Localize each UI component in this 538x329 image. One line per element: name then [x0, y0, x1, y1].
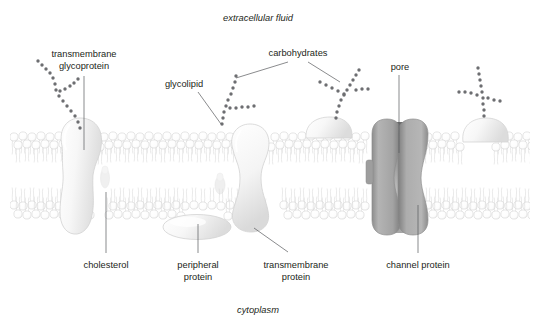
- label-extracellular-fluid: extracellular fluid: [223, 13, 294, 23]
- leader-glycolipid: [198, 92, 221, 124]
- carbohydrate-chain-right: [457, 66, 501, 117]
- label-carbohydrates: carbohydrates: [269, 48, 328, 58]
- label-transmembrane-glycoprotein-line2: glycoprotein: [59, 61, 109, 71]
- cell-membrane-diagram: ​: [0, 0, 538, 329]
- label-transmembrane-glycoprotein-line1: transmembrane: [51, 49, 116, 59]
- carbohydrate-chain-center: [318, 68, 369, 119]
- label-transmembrane-protein-line2: protein: [282, 272, 310, 282]
- label-pore: pore: [391, 62, 410, 72]
- label-glycolipid: glycolipid: [165, 79, 203, 89]
- channel-protein-body: [366, 119, 428, 235]
- label-transmembrane-protein-line1: transmembrane: [263, 260, 328, 270]
- leader-carbohydrates-right: [308, 62, 340, 82]
- label-peripheral-protein-line2: protein: [184, 272, 212, 282]
- peripheral-protein-body: [163, 215, 231, 240]
- leader-transmembrane-protein: [254, 228, 288, 252]
- label-peripheral-protein-line1: peripheral: [177, 260, 218, 270]
- label-channel-protein: channel protein: [386, 260, 450, 270]
- label-cytoplasm: cytoplasm: [237, 305, 279, 315]
- diagram-canvas: ​: [0, 0, 538, 329]
- leader-carbohydrates-left: [236, 62, 288, 78]
- transmembrane-protein-body: [232, 124, 269, 232]
- transmembrane-glycoprotein-body: [60, 118, 102, 234]
- glycolipid-carbohydrate-chain: [220, 74, 255, 125]
- label-cholesterol: cholesterol: [84, 260, 129, 270]
